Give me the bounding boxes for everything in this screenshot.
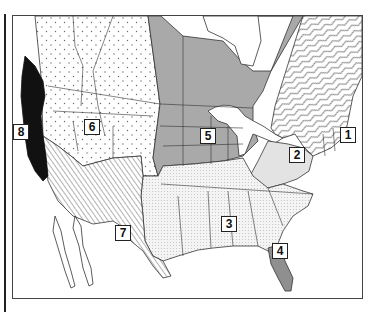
region-label-1: 1 <box>340 127 356 143</box>
region-label-5: 5 <box>200 128 216 144</box>
map-frame: 1 2 3 4 5 6 7 8 <box>12 15 363 299</box>
left-margin-rule <box>4 14 6 312</box>
region-label-8: 8 <box>13 124 29 140</box>
region-label-4: 4 <box>272 243 288 259</box>
region-label-6: 6 <box>84 119 100 135</box>
region-label-3: 3 <box>221 216 237 232</box>
region-label-2: 2 <box>289 147 305 163</box>
north-america-region-map <box>13 16 362 298</box>
region-label-7: 7 <box>115 225 131 241</box>
baja-california <box>53 216 93 288</box>
